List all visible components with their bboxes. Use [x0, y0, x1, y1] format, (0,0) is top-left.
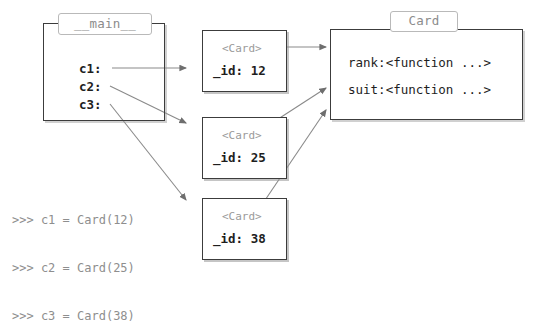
instance-1-type-label: <Card>	[222, 43, 262, 54]
variable-c1: c1:	[79, 63, 102, 76]
instance-box-1	[202, 30, 287, 92]
class-frame-name: Card	[409, 15, 440, 28]
class-frame-name-tag: Card	[390, 11, 458, 32]
console-transcript: >>> c1 = Card(12) >>> c2 = Card(25) >>> …	[12, 180, 135, 325]
console-line-1: >>> c1 = Card(12)	[12, 212, 135, 228]
instance-2-type-label: <Card>	[222, 130, 262, 141]
instance-2-attribute: _id: 25	[213, 152, 266, 165]
variable-c3: c3:	[79, 99, 102, 112]
instance-1-attribute: _id: 12	[213, 65, 266, 78]
class-frame	[330, 29, 523, 120]
main-frame-name-tag: __main__	[58, 13, 152, 35]
instance-3-attribute: _id: 38	[213, 233, 266, 246]
class-attribute-suit: suit:<function ...>	[348, 84, 491, 97]
instance-box-3	[202, 198, 287, 260]
main-frame	[43, 23, 165, 121]
class-attribute-rank: rank:<function ...>	[348, 57, 491, 70]
main-frame-name: __main__	[74, 18, 136, 31]
console-line-2: >>> c2 = Card(25)	[12, 260, 135, 276]
instance-box-2	[202, 117, 287, 179]
instance-3-type-label: <Card>	[222, 211, 262, 222]
variable-c2: c2:	[79, 81, 102, 94]
console-line-3: >>> c3 = Card(38)	[12, 308, 135, 324]
